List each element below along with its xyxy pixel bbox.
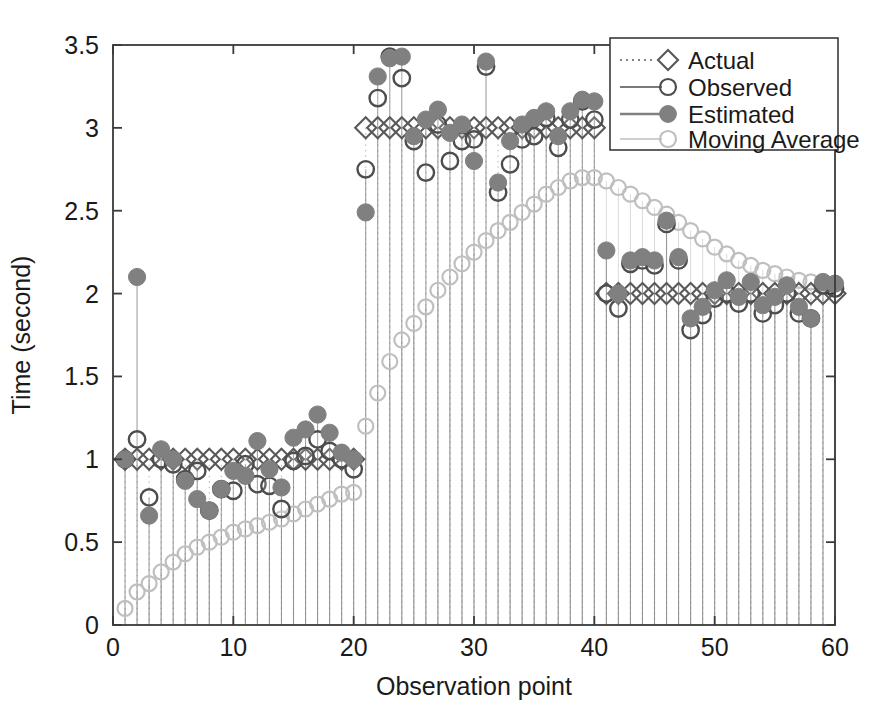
estimated-point: [273, 479, 290, 496]
estimated-point: [141, 507, 158, 524]
observed-point: [610, 300, 626, 316]
observed-point: [358, 161, 374, 177]
observed-point: [442, 153, 458, 169]
estimated-point: [538, 103, 555, 120]
observed-point: [129, 431, 145, 447]
y-tick-label: 3: [85, 114, 99, 142]
y-tick-label: 2: [85, 280, 99, 308]
estimated-point: [453, 116, 470, 133]
estimated-point: [297, 421, 314, 438]
estimated-point: [345, 451, 362, 468]
x-tick-label: 40: [580, 633, 608, 661]
estimated-point: [429, 101, 446, 118]
observed-point: [502, 156, 518, 172]
estimated-point: [237, 467, 254, 484]
y-tick-label: 0.5: [64, 528, 99, 556]
legend-marker-estimated: [660, 106, 677, 123]
estimated-point: [718, 272, 735, 289]
y-tick-label: 2.5: [64, 197, 99, 225]
x-tick-label: 30: [460, 633, 488, 661]
y-tick-label: 1.5: [64, 362, 99, 390]
x-tick-label: 0: [106, 633, 120, 661]
estimated-point: [465, 152, 482, 169]
estimated-point: [610, 285, 627, 302]
estimated-point: [177, 472, 194, 489]
estimated-point: [405, 128, 422, 145]
chart-legend[interactable]: ActualObservedEstimatedMoving Average: [610, 38, 860, 153]
x-tick-label: 50: [701, 633, 729, 661]
y-axis-title: Time (second): [7, 256, 35, 415]
estimated-point: [658, 212, 675, 229]
legend-label-moving-average[interactable]: Moving Average: [688, 126, 860, 153]
legend-label-estimated[interactable]: Estimated: [688, 101, 795, 128]
y-tick-label: 0: [85, 611, 99, 639]
legend-label-actual[interactable]: Actual: [688, 47, 755, 74]
estimated-point: [201, 502, 218, 519]
x-axis-title: Observation point: [376, 672, 572, 700]
estimated-point: [213, 481, 230, 498]
estimated-point: [357, 204, 374, 221]
estimated-point: [550, 128, 567, 145]
chart-figure: 010203040506000.511.522.533.5Observation…: [0, 0, 877, 722]
estimated-point: [249, 432, 266, 449]
estimated-point: [321, 424, 338, 441]
observed-point: [466, 131, 482, 147]
estimated-point: [261, 461, 278, 478]
estimated-point: [309, 406, 326, 423]
estimated-point: [646, 252, 663, 269]
y-tick-label: 1: [85, 445, 99, 473]
estimated-point: [730, 288, 747, 305]
estimated-point: [489, 174, 506, 191]
estimated-point: [165, 451, 182, 468]
estimated-point: [694, 298, 711, 315]
legend-label-observed[interactable]: Observed: [688, 74, 792, 101]
y-tick-label: 3.5: [64, 31, 99, 59]
estimated-point: [586, 93, 603, 110]
estimated-point: [393, 48, 410, 65]
estimated-point: [369, 68, 386, 85]
x-tick-label: 20: [340, 633, 368, 661]
observed-point: [297, 448, 313, 464]
observed-point: [273, 501, 289, 517]
observed-point: [141, 489, 157, 505]
x-tick-label: 60: [821, 633, 849, 661]
estimated-point: [778, 277, 795, 294]
estimated-point: [128, 268, 145, 285]
observed-point: [586, 111, 602, 127]
x-tick-label: 10: [219, 633, 247, 661]
estimated-point: [598, 242, 615, 259]
estimated-point: [742, 273, 759, 290]
estimated-point: [502, 133, 519, 150]
observed-point: [418, 164, 434, 180]
estimated-point: [477, 53, 494, 70]
estimated-point: [670, 249, 687, 266]
chart-plot-area: 010203040506000.511.522.533.5Observation…: [0, 0, 877, 722]
estimated-point: [802, 310, 819, 327]
observed-point: [394, 70, 410, 86]
observed-point: [370, 90, 386, 106]
